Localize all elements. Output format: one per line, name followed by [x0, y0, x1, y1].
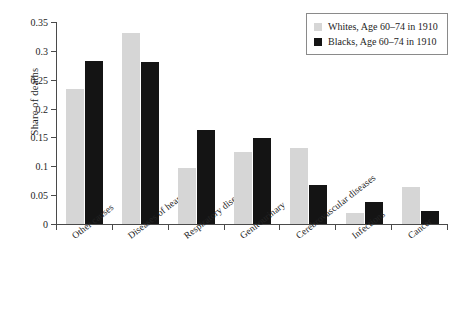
bar	[66, 89, 84, 224]
legend-item-blacks: Blacks, Age 60–74 in 1910	[314, 34, 438, 49]
y-axis-tick-label: 0.25	[31, 74, 49, 85]
bar	[234, 152, 252, 224]
legend-label-blacks: Blacks, Age 60–74 in 1910	[328, 36, 437, 47]
y-axis-tick	[51, 22, 56, 23]
bar	[402, 187, 420, 225]
y-axis-tick	[51, 166, 56, 167]
legend-swatch-whites-icon	[314, 23, 322, 31]
x-axis-tick	[168, 224, 169, 230]
y-axis-tick	[51, 137, 56, 138]
y-axis-tick	[51, 109, 56, 110]
bar	[290, 148, 308, 224]
y-axis-tick-label: 0.05	[31, 190, 49, 201]
y-axis-tick-label: 0.15	[31, 132, 49, 143]
y-axis-tick-label: 0.2	[36, 103, 49, 114]
y-axis-tick-label: 0.1	[36, 161, 49, 172]
y-axis-tick	[51, 51, 56, 52]
bar	[122, 33, 140, 224]
bar	[85, 61, 103, 224]
legend-swatch-blacks-icon	[314, 38, 322, 46]
bar-chart: Share of deaths 00.050.10.150.20.250.30.…	[0, 0, 469, 316]
bar	[346, 213, 364, 224]
bar	[178, 168, 196, 224]
x-axis-tick	[224, 224, 225, 230]
x-axis-tick	[56, 224, 57, 230]
x-axis-tick	[447, 224, 448, 230]
legend-item-whites: Whites, Age 60–74 in 1910	[314, 19, 438, 34]
y-axis-tick-label: 0	[43, 219, 48, 230]
y-axis-line	[56, 22, 57, 224]
x-axis-tick	[112, 224, 113, 230]
x-axis-tick	[279, 224, 280, 230]
bar	[141, 62, 159, 224]
legend-label-whites: Whites, Age 60–74 in 1910	[328, 21, 438, 32]
x-axis-tick	[335, 224, 336, 230]
legend: Whites, Age 60–74 in 1910 Blacks, Age 60…	[306, 13, 448, 55]
x-axis-tick	[391, 224, 392, 230]
y-axis-tick	[51, 80, 56, 81]
y-axis-tick-label: 0.35	[31, 17, 49, 28]
y-axis-tick-label: 0.3	[36, 45, 49, 56]
y-axis-tick	[51, 195, 56, 196]
